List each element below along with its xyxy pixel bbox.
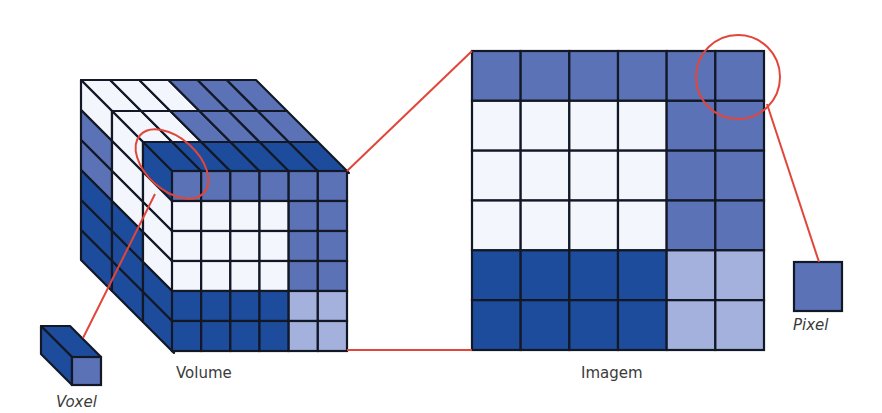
pixel-cell (569, 101, 618, 151)
pixel-cell (667, 151, 716, 201)
voxel-front-face (289, 321, 318, 351)
pixel-cell (472, 101, 521, 151)
connector-top-line (347, 51, 472, 171)
voxel-front-face (201, 201, 230, 231)
voxel-front-face (289, 291, 318, 321)
voxel-pixel-diagram (0, 0, 882, 413)
pixel-cell (618, 250, 667, 300)
voxel-front-face (230, 321, 259, 351)
pixel-cell (618, 101, 667, 151)
voxel-front-face (318, 321, 347, 351)
pixel-icon (794, 262, 842, 311)
volume-cube (81, 80, 349, 353)
voxel-front-face (260, 321, 289, 351)
pixel-cell (472, 201, 521, 251)
voxel-front (72, 357, 101, 385)
voxel-front-face (201, 231, 230, 261)
volume-label: Volume (176, 364, 232, 382)
voxel-front-face (172, 201, 201, 231)
pixel-cell (569, 51, 618, 101)
pixel-cell (521, 250, 570, 300)
voxel-front-face (230, 231, 259, 261)
pixel-cell (569, 201, 618, 251)
pixel-cell (569, 151, 618, 201)
voxel-front-face (289, 231, 318, 261)
pixel-square (794, 262, 842, 311)
voxel-front-face (260, 291, 289, 321)
voxel-front-face (318, 261, 347, 291)
pixel-cell (667, 250, 716, 300)
voxel-front-face (260, 201, 289, 231)
voxel-front-face (318, 291, 347, 321)
pixel-cell (715, 51, 764, 101)
voxel-front-face (201, 291, 230, 321)
voxel-front-face (230, 171, 259, 201)
voxel-front-face (201, 321, 230, 351)
voxel-front-face (289, 171, 318, 201)
pixel-cell (521, 201, 570, 251)
pixel-cell (618, 51, 667, 101)
pixel-cell (667, 51, 716, 101)
voxel-front-face (260, 231, 289, 261)
pixel-cell (569, 300, 618, 350)
voxel-front-face (172, 231, 201, 261)
pixel-label: Pixel (793, 316, 829, 334)
pixel-cell (521, 101, 570, 151)
voxel-front-face (289, 201, 318, 231)
image-grid (472, 51, 764, 350)
pixel-cell (618, 300, 667, 350)
pixel-pointer-line (767, 104, 819, 262)
voxel-front-face (230, 291, 259, 321)
voxel-front-face (289, 261, 318, 291)
pixel-cell (472, 250, 521, 300)
voxel-front-face (172, 261, 201, 291)
pixel-cell (715, 250, 764, 300)
voxel-front-face (260, 261, 289, 291)
pixel-cell (715, 201, 764, 251)
voxel-front-face (318, 231, 347, 261)
voxel-label: Voxel (56, 393, 97, 411)
pixel-cell (472, 151, 521, 201)
voxel-front-face (230, 261, 259, 291)
voxel-front-face (201, 171, 230, 201)
pixel-cell (521, 151, 570, 201)
pixel-cell (472, 51, 521, 101)
pixel-cell (667, 101, 716, 151)
pixel-cell (569, 250, 618, 300)
pixel-cell (667, 300, 716, 350)
pixel-cell (667, 201, 716, 251)
pixel-cell (521, 300, 570, 350)
pixel-cell (618, 201, 667, 251)
pixel-cell (521, 51, 570, 101)
image-label: Imagem (581, 364, 643, 382)
voxel-front-face (230, 201, 259, 231)
voxel-front-face (318, 201, 347, 231)
voxel-icon (41, 326, 101, 385)
voxel-front-face (172, 291, 201, 321)
pixel-cell (715, 151, 764, 201)
pixel-cell (618, 151, 667, 201)
voxel-front-face (260, 171, 289, 201)
voxel-front-face (201, 261, 230, 291)
voxel-front-face (172, 321, 201, 351)
voxel-front-face (318, 171, 347, 201)
pixel-cell (715, 300, 764, 350)
pixel-cell (715, 101, 764, 151)
pixel-cell (472, 300, 521, 350)
